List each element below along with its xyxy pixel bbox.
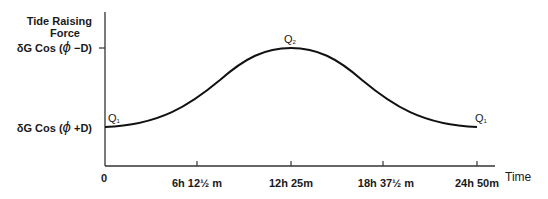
x-origin-label: 0	[101, 172, 107, 184]
title-line-2: Force	[0, 27, 92, 39]
point-q1-end: Q1	[475, 112, 487, 127]
x-tick-label-3: 18h 37½ m	[358, 177, 414, 189]
x-tick-label-4: 24h 50m	[455, 177, 499, 189]
point-q1-start: Q1	[108, 112, 120, 127]
title-line-1: Tide Raising	[0, 15, 92, 27]
y-axis-title: Tide Raising Force	[0, 15, 92, 39]
x-tick-label-1: 6h 12½ m	[172, 177, 222, 189]
y-label-bottom: δG Cos (ϕ +D)	[0, 121, 92, 134]
tide-curve	[105, 48, 477, 127]
x-axis-title: Time	[505, 171, 531, 183]
y-label-top: δG Cos (ϕ −D)	[0, 41, 92, 54]
point-q2-peak: Q2	[284, 33, 296, 48]
x-tick-label-2: 12h 25m	[269, 177, 313, 189]
